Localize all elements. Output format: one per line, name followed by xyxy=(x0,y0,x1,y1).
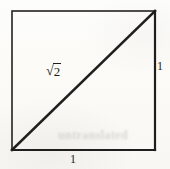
label-hypotenuse-radicand: 2 xyxy=(53,63,62,79)
label-bottom-side: 1 xyxy=(70,153,76,165)
diagonal-line xyxy=(12,11,155,150)
figure-vector-canvas xyxy=(0,0,170,169)
geometry-figure: untranslated √2 1 1 xyxy=(0,0,170,169)
label-hypotenuse: √2 xyxy=(46,64,61,78)
label-right-side: 1 xyxy=(157,60,163,72)
